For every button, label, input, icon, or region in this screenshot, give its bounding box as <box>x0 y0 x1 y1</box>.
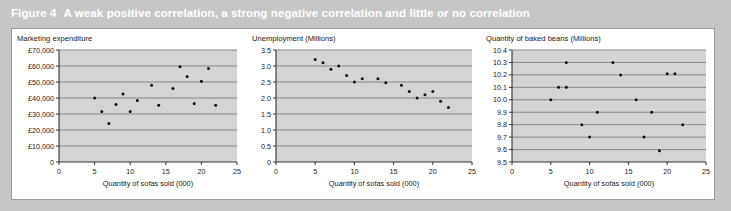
data-point <box>150 84 153 87</box>
chart-unemployment: Unemployment (Millions) 00.51.01.52.02.5… <box>250 33 478 197</box>
x-axis-tick-label: 25 <box>468 167 476 176</box>
plot-area: 00.51.01.52.02.53.03.50510152025Quantity… <box>250 44 478 197</box>
figure-container: Figure 4A weak positive correlation, a s… <box>0 0 731 211</box>
y-axis-tick-label: 9.7 <box>497 133 507 142</box>
data-point <box>658 149 661 152</box>
x-axis-tick-label: 0 <box>274 167 278 176</box>
data-point <box>361 77 364 80</box>
y-axis-tick-label: 0 <box>267 158 271 167</box>
data-point <box>408 90 411 93</box>
data-point <box>179 65 182 68</box>
data-point <box>384 81 387 84</box>
data-point <box>122 93 125 96</box>
plot-area: 9.59.69.79.89.910.010.110.210.310.405101… <box>484 44 712 197</box>
data-point <box>588 136 591 139</box>
data-point <box>100 110 103 113</box>
chart-marketing-expenditure: Marketing expenditure 0£10,000£20,000£30… <box>15 33 243 197</box>
y-axis-tick-label: £10,000 <box>28 142 54 151</box>
data-point <box>580 123 583 126</box>
x-axis-tick-label: 20 <box>197 167 205 176</box>
data-point <box>416 97 419 100</box>
data-point <box>186 75 189 78</box>
data-point <box>322 61 325 64</box>
data-point <box>642 136 645 139</box>
data-point <box>447 106 450 109</box>
x-axis-title: Quantity of sofas sold (000) <box>329 179 419 188</box>
x-axis-tick-label: 5 <box>313 167 317 176</box>
data-point <box>400 84 403 87</box>
plot-background <box>276 50 472 162</box>
x-axis-tick-label: 15 <box>624 167 632 176</box>
data-point <box>314 58 317 61</box>
data-point <box>93 97 96 100</box>
x-axis-tick-label: 5 <box>93 167 97 176</box>
y-axis-tick-label: £70,000 <box>28 46 54 55</box>
y-axis-tick-label: 3.5 <box>261 46 271 55</box>
data-point <box>107 122 110 125</box>
data-point <box>193 102 196 105</box>
data-point <box>666 72 669 75</box>
data-point <box>431 90 434 93</box>
y-axis-tick-label: £30,000 <box>28 110 54 119</box>
chart-title: Unemployment (Millions) <box>252 34 336 43</box>
data-point <box>337 65 340 68</box>
y-axis-tick-label: 10.3 <box>493 58 507 67</box>
data-point <box>596 111 599 114</box>
chart-baked-beans: Quantity of baked beans (Millions) 9.59.… <box>484 33 712 197</box>
y-axis-tick-label: 9.9 <box>497 108 507 117</box>
x-axis-tick-label: 10 <box>126 167 134 176</box>
x-axis-tick-label: 0 <box>57 167 61 176</box>
data-point <box>673 72 676 75</box>
y-axis-tick-label: £60,000 <box>28 62 54 71</box>
data-point <box>353 81 356 84</box>
x-axis-tick-label: 5 <box>549 167 553 176</box>
figure-caption: Figure 4A weak positive correlation, a s… <box>11 7 530 19</box>
y-axis-tick-label: 10.1 <box>493 83 507 92</box>
figure-number: Figure 4 <box>11 7 57 19</box>
y-axis-tick-label: 10.0 <box>493 95 507 104</box>
scatter-plot-svg: 9.59.69.79.89.910.010.110.210.310.405101… <box>484 44 712 197</box>
y-axis-tick-label: 10.4 <box>493 46 507 55</box>
data-point <box>207 67 210 70</box>
y-axis-tick-label: 2.5 <box>261 78 271 87</box>
chart-title: Marketing expenditure <box>17 34 92 43</box>
figure-caption-text: A weak positive correlation, a strong ne… <box>64 7 530 19</box>
x-axis-title: Quantity of sofas sold (000) <box>103 179 193 188</box>
x-axis-tick-label: 15 <box>162 167 170 176</box>
x-axis-tick-label: 25 <box>702 167 710 176</box>
y-axis-tick-label: £20,000 <box>28 126 54 135</box>
y-axis-tick-label: 9.6 <box>497 145 507 154</box>
x-axis-title: Quantity of sofas sold (000) <box>564 179 654 188</box>
x-axis-tick-label: 25 <box>233 167 241 176</box>
data-point <box>439 100 442 103</box>
data-point <box>565 61 568 64</box>
y-axis-tick-label: 2.0 <box>261 94 271 103</box>
data-point <box>565 86 568 89</box>
x-axis-tick-label: 10 <box>586 167 594 176</box>
y-axis-tick-label: £50,000 <box>28 78 54 87</box>
plot-background <box>59 50 237 162</box>
data-point <box>200 80 203 83</box>
data-point <box>611 61 614 64</box>
y-axis-tick-label: 3.0 <box>261 62 271 71</box>
scatter-plot-svg: 00.51.01.52.02.53.03.50510152025Quantity… <box>250 44 478 197</box>
x-axis-tick-label: 20 <box>663 167 671 176</box>
y-axis-tick-label: 1.5 <box>261 110 271 119</box>
data-point <box>214 104 217 107</box>
y-axis-tick-label: 9.5 <box>497 158 507 167</box>
data-point <box>114 103 117 106</box>
data-point <box>376 77 379 80</box>
plot-area: 0£10,000£20,000£30,000£40,000£50,000£60,… <box>15 44 243 197</box>
data-point <box>557 86 560 89</box>
data-point <box>650 111 653 114</box>
data-point <box>549 98 552 101</box>
y-axis-tick-label: 10.2 <box>493 70 507 79</box>
data-point <box>157 104 160 107</box>
data-point <box>171 87 174 90</box>
data-point <box>129 110 132 113</box>
data-point <box>681 123 684 126</box>
data-point <box>329 68 332 71</box>
scatter-plot-svg: 0£10,000£20,000£30,000£40,000£50,000£60,… <box>15 44 243 197</box>
data-point <box>345 74 348 77</box>
y-axis-tick-label: 0 <box>50 158 54 167</box>
